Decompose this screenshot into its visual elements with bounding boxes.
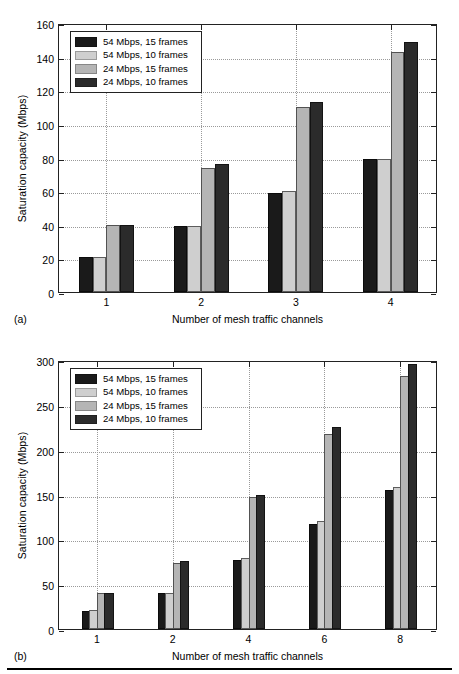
x-axis-tick-mark [173,362,174,367]
figure-page: Saturation capacity (Mbps) 0204060801001… [0,0,459,674]
grid-line [59,541,436,542]
x-axis-tick-label: 8 [397,633,403,645]
legend-swatch [75,37,97,47]
x-axis-tick-mark [201,25,202,30]
y-axis-tick-mark [59,126,64,127]
bar [408,364,417,629]
panel-b-y-axis-label: Saturation capacity (Mbps) [16,361,28,630]
legend-label: 54 Mbps, 10 frames [103,50,188,60]
panel-b: Saturation capacity (Mbps) 0501001502002… [0,337,459,674]
y-axis-tick-mark [59,497,64,498]
y-axis-tick-mark [431,59,436,60]
y-axis-tick-mark [59,92,64,93]
panel-a-caption: (a) [14,313,27,325]
legend-swatch [75,401,97,411]
y-axis-tick-label: 40 [42,221,54,233]
bar [106,225,120,292]
bar [377,159,391,292]
x-axis-tick-mark [324,362,325,367]
x-axis-tick-mark [391,25,392,30]
y-axis-tick-mark [59,541,64,542]
x-axis-tick-mark [249,362,250,367]
y-axis-tick-mark [431,92,436,93]
y-axis-tick-mark [431,541,436,542]
panel-b-legend: 54 Mbps, 15 frames54 Mbps, 10 frames24 M… [70,368,202,430]
x-axis-tick-label: 1 [103,296,109,308]
legend-label: 24 Mbps, 10 frames [103,77,188,87]
y-axis-tick-label: 60 [42,187,54,199]
y-axis-tick-mark [59,260,64,261]
legend-entry: 24 Mbps, 15 frames [75,62,196,76]
y-axis-tick-mark [431,586,436,587]
y-axis-tick-label: 100 [36,535,54,547]
x-axis-tick-mark [97,362,98,367]
grid-line [59,452,436,453]
y-axis-tick-mark [431,497,436,498]
legend-label: 24 Mbps, 15 frames [103,64,188,74]
legend-entry: 24 Mbps, 10 frames [75,413,196,427]
bar [256,495,265,630]
y-axis-tick-mark [431,407,436,408]
bar [120,225,134,292]
y-axis-tick-mark [59,407,64,408]
legend-entry: 54 Mbps, 10 frames [75,386,196,400]
y-axis-tick-label: 160 [36,19,54,31]
panel-a-y-axis-label: Saturation capacity (Mbps) [16,24,28,293]
y-axis-tick-mark [59,586,64,587]
x-axis-tick-label: 4 [246,633,252,645]
y-axis-tick-label: 140 [36,53,54,65]
bar [391,52,405,292]
legend-entry: 24 Mbps, 10 frames [75,76,196,90]
x-axis-tick-label: 2 [198,296,204,308]
bar [104,593,113,629]
x-axis-tick-label: 1 [94,633,100,645]
bar [201,168,215,292]
y-axis-tick-mark [59,25,64,26]
y-axis-tick-label: 0 [48,288,54,300]
panel-a-x-axis-label: Number of mesh traffic channels [58,313,437,325]
panel-b-x-axis-label: Number of mesh traffic channels [58,650,437,662]
y-axis-tick-label: 0 [48,625,54,637]
bar [282,191,296,292]
y-axis-tick-label: 20 [42,254,54,266]
y-axis-tick-label: 150 [36,491,54,503]
bar [268,193,282,292]
legend-entry: 24 Mbps, 15 frames [75,399,196,413]
legend-label: 24 Mbps, 15 frames [103,401,188,411]
x-axis-tick-mark [106,25,107,30]
y-axis-tick-mark [59,362,64,363]
bar [404,42,418,293]
x-axis-tick-label: 2 [170,633,176,645]
y-axis-tick-mark [431,260,436,261]
y-axis-tick-label: 200 [36,446,54,458]
y-axis-tick-mark [431,160,436,161]
y-axis-tick-mark [431,227,436,228]
panel-a-legend: 54 Mbps, 15 frames54 Mbps, 10 frames24 M… [70,31,202,93]
y-axis-tick-mark [59,294,64,295]
legend-label: 54 Mbps, 10 frames [103,387,188,397]
y-axis-tick-mark [431,126,436,127]
y-axis-tick-mark [431,193,436,194]
y-axis-tick-mark [59,160,64,161]
legend-entry: 54 Mbps, 15 frames [75,372,196,386]
y-axis-tick-mark [59,227,64,228]
legend-label: 54 Mbps, 15 frames [103,374,188,384]
x-axis-tick-label: 3 [293,296,299,308]
y-axis-tick-label: 100 [36,120,54,132]
y-axis-tick-label: 80 [42,154,54,166]
bar [187,226,201,292]
legend-label: 54 Mbps, 15 frames [103,37,188,47]
bar [296,107,310,292]
x-axis-tick-mark [296,25,297,30]
y-axis-tick-label: 250 [36,401,54,413]
panel-b-caption: (b) [14,650,27,662]
legend-swatch [75,374,97,384]
y-axis-tick-mark [431,25,436,26]
legend-label: 24 Mbps, 10 frames [103,414,188,424]
grid-line [59,497,436,498]
legend-entry: 54 Mbps, 15 frames [75,35,196,49]
legend-swatch [75,388,97,398]
y-axis-tick-mark [59,452,64,453]
bar [180,561,189,629]
bar [79,257,93,292]
